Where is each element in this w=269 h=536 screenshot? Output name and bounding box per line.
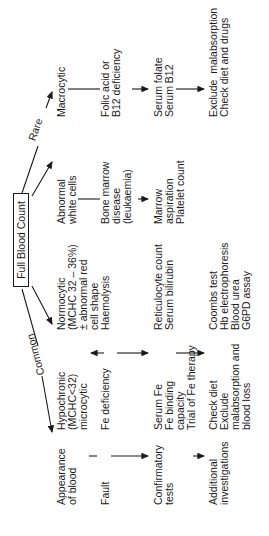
col1-fault: Fe deficiency [100, 368, 111, 430]
col3-appearance: Abnormal white cells [56, 176, 78, 224]
col4-confirmatory: Serum folate Serum B12 [153, 57, 175, 117]
col1-confirmatory: Serum Fe Fe binding capacity Trial of Fe… [153, 345, 197, 430]
col2-additional: Coombs test Hb electrophoresis Blood ure… [208, 242, 252, 330]
row-label-fault: Fault [100, 482, 111, 505]
col1-additional: Check diet Exclude malabsorption and blo… [208, 344, 252, 430]
col2-confirmatory: Reticulocyte count Serum bilirubin [153, 244, 175, 330]
col4-fault: Folic acid or B12 deficiency [100, 49, 122, 117]
row-label-appearance: Appearance of blood [56, 448, 78, 505]
col3-fault: Bone marrow disease (leukaemia) [100, 162, 133, 224]
col3-confirmatory: Marrow aspiration Platelet count [153, 160, 186, 224]
col4-appearance: Macrocytic [56, 67, 67, 117]
row-label-additional: Additional investigations [208, 441, 230, 505]
col4-additional: Exclude malabsorption Check diet and dru… [208, 8, 230, 117]
full-blood-count-box: Full Blood Count [13, 193, 29, 287]
col2-appearance: Normocytic (MCHC 32 – 36%) ± abnormal re… [56, 244, 100, 330]
blood-count-diagnostic-flowchart: Full Blood Count Common Rare Appearance … [0, 0, 269, 536]
col1-appearance: Hypochronic (MCHC<32) microcytic [56, 372, 89, 430]
col2-fault: Haemolysis [100, 276, 111, 330]
row-label-confirmatory: Confirmatory tests [153, 445, 175, 505]
